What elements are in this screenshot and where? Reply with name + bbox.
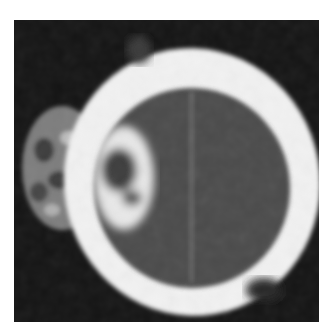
ct-scan-graphic <box>14 20 319 322</box>
ct-scan-image <box>14 20 319 322</box>
